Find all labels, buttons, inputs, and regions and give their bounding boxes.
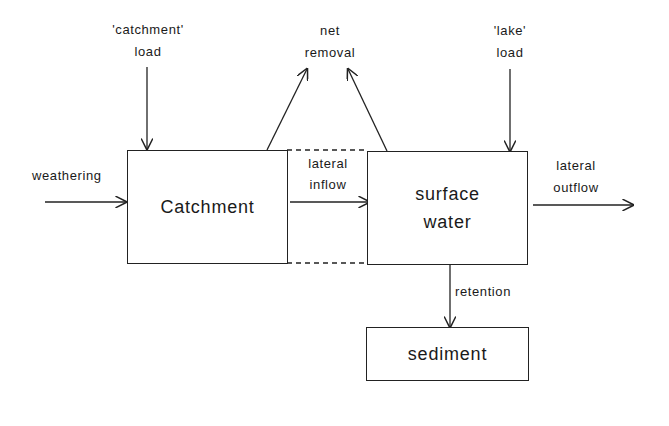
lateral-inflow-line1: lateral [297,155,359,173]
lake-load-line1: 'lake' [485,22,535,40]
catchment-load-label: 'catchment' load [105,21,191,61]
catchment-load-line2: load [105,43,191,61]
catchment-box: Catchment [127,150,288,264]
flow-arrows [0,0,669,426]
lateral-outflow-line1: lateral [543,157,609,175]
surface-water-line1: surface [368,180,527,208]
surface-water-box: surface water [367,151,528,265]
retention-label: retention [455,283,511,301]
weathering-label: weathering [32,167,102,185]
net-removal-label: net removal [291,22,369,62]
sediment-box: sediment [366,327,529,381]
lateral-outflow-line2: outflow [543,179,609,197]
net-removal-line1: net [291,22,369,40]
catchment-load-line1: 'catchment' [105,21,191,39]
surface-water-label: surface water [368,180,527,236]
net-removal-arrow-surface [348,69,387,151]
catchment-label: Catchment [128,194,287,220]
net-removal-line2: removal [291,44,369,62]
lake-load-line2: load [485,44,535,62]
lateral-inflow-label: lateral inflow [297,155,359,194]
lateral-inflow-line2: inflow [297,176,359,194]
lateral-outflow-label: lateral outflow [543,157,609,197]
sediment-label: sediment [367,341,528,367]
surface-water-line2: water [368,208,527,236]
net-removal-arrow-catchment [267,69,307,150]
lake-load-label: 'lake' load [485,22,535,62]
